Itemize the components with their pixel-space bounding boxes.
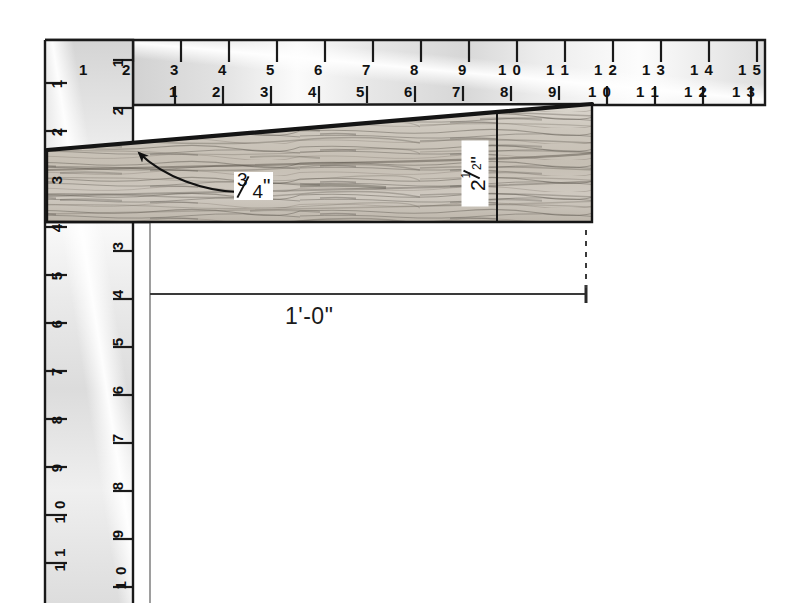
top-outer-num-6: 6	[314, 62, 323, 77]
diagram-canvas: 1 2 3 4 5 6 7 8 9 1 0 1 1 1 2 1 3 1 4 1 …	[0, 0, 804, 603]
side-inner-num-5: 5	[110, 337, 125, 346]
side-outer-num-5: 5	[49, 271, 64, 280]
length-dimension-label: 1'-0"	[285, 305, 333, 328]
top-outer-num-13: 1 3	[642, 62, 666, 77]
top-inner-num-7: 7	[452, 84, 461, 99]
top-outer-num-7: 7	[362, 62, 371, 77]
side-inner-num-1: 1	[110, 58, 125, 67]
top-inner-num-3: 3	[260, 84, 269, 99]
top-inner-num-8: 8	[500, 84, 509, 99]
side-outer-num-8: 8	[49, 415, 64, 424]
side-outer-num-10: 1 0	[52, 500, 67, 524]
top-inner-num-13: 1 3	[732, 84, 756, 99]
depth-whole: 2	[466, 179, 489, 191]
side-outer-num-11: 1 1	[52, 548, 67, 572]
depth-unit: "	[466, 156, 489, 163]
side-outer-num-4: 4	[49, 223, 64, 232]
top-outer-num-3: 3	[170, 62, 179, 77]
top-inner-num-2: 2	[212, 84, 221, 99]
top-inner-num-4: 4	[308, 84, 317, 99]
side-inner-num-8: 8	[110, 481, 125, 490]
side-inner-num-10: 1 0	[113, 566, 128, 590]
side-outer-num-6: 6	[49, 319, 64, 328]
top-inner-num-6: 6	[404, 84, 413, 99]
taper-unit: "	[263, 174, 270, 197]
top-inner-num-10: 1 0	[588, 84, 612, 99]
side-inner-num-2: 2	[110, 106, 125, 115]
top-outer-num-15: 1 5	[738, 62, 762, 77]
side-inner-num-3: 3	[110, 241, 125, 250]
top-inner-num-5: 5	[356, 84, 365, 99]
taper-denominator: 4	[252, 182, 263, 201]
top-outer-num-8: 8	[410, 62, 419, 77]
top-outer-num-14: 1 4	[690, 62, 714, 77]
side-inner-num-4: 4	[110, 289, 125, 298]
top-outer-num-4: 4	[218, 62, 227, 77]
top-outer-num-5: 5	[266, 62, 275, 77]
top-inner-num-11: 1 1	[636, 84, 660, 99]
top-outer-num-1: 1	[79, 62, 88, 77]
top-outer-num-9: 9	[458, 62, 467, 77]
top-inner-num-12: 1 2	[684, 84, 708, 99]
side-inner-num-6: 6	[110, 385, 125, 394]
side-outer-num-1: 1	[49, 79, 64, 88]
side-outer-num-7: 7	[49, 367, 64, 376]
depth-callout: 2 1 2 "	[462, 141, 489, 207]
top-outer-num-10: 1 0	[498, 62, 522, 77]
top-outer-num-11: 1 1	[546, 62, 570, 77]
side-outer-num-9: 9	[49, 463, 64, 472]
top-inner-num-9: 9	[548, 84, 557, 99]
depth-denominator: 2	[471, 163, 483, 170]
top-outer-num-12: 1 2	[594, 62, 618, 77]
side-outer-num-3: 3	[49, 175, 64, 184]
side-outer-num-2: 2	[49, 127, 64, 136]
side-inner-num-9: 9	[110, 529, 125, 538]
length-dimension	[150, 230, 586, 303]
side-inner-num-7: 7	[110, 433, 125, 442]
top-inner-num-1: 1	[169, 84, 178, 99]
taper-thickness-callout: 3 4 "	[234, 172, 273, 200]
